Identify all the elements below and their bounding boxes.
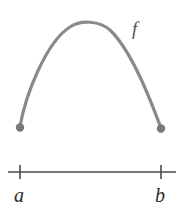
function-label-f: f	[132, 19, 137, 38]
function-diagram-svg	[0, 0, 184, 215]
endpoint-dot-right	[157, 124, 165, 132]
axis-label-a: a	[14, 185, 24, 205]
axis-label-b: b	[155, 185, 165, 205]
function-curve-f	[20, 22, 161, 128]
figure-container: f a b	[0, 0, 184, 215]
endpoint-dot-left	[16, 123, 24, 131]
